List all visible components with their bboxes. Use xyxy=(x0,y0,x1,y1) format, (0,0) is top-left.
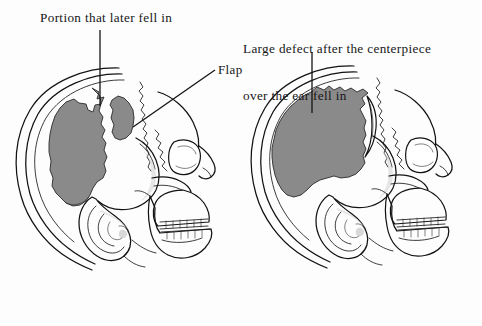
nasal-bone-right xyxy=(436,144,452,177)
upper-teeth-base-right xyxy=(397,224,445,227)
ear-concha-left xyxy=(108,222,122,240)
styloid-right xyxy=(369,238,393,251)
caption-large-defect-line2: over the ear fell in xyxy=(243,88,431,104)
figure-container: Portion that later fell in Large defect … xyxy=(0,0,482,326)
mastoid-process-right xyxy=(361,254,382,265)
ear-antihelix-right xyxy=(335,212,351,244)
ear-canal-shadow-right xyxy=(356,228,364,237)
mandible-body-right xyxy=(399,236,439,240)
flap-region-left xyxy=(110,96,134,140)
skull-panel-left xyxy=(0,0,241,326)
mastoid-process-left xyxy=(124,256,145,267)
nasal-aperture-left xyxy=(203,168,211,177)
lambdoid-suture-right xyxy=(392,128,404,169)
ear-canal-shadow-left xyxy=(119,230,127,239)
zygomatic-arch-lower-left xyxy=(154,185,182,190)
caption-flap: Flap xyxy=(218,62,243,78)
mandible-body-left xyxy=(162,238,202,242)
ear-antihelix-left xyxy=(98,214,114,246)
styloid-left xyxy=(132,240,156,253)
orbit-left xyxy=(169,140,201,175)
caption-large-defect-line1: Large defect after the centerpiece xyxy=(243,41,431,57)
lambdoid-suture-left xyxy=(155,130,167,171)
caption-portion-fell-in: Portion that later fell in xyxy=(40,10,172,26)
nasal-aperture-right xyxy=(440,166,448,175)
zygomatic-arch-lower-right xyxy=(391,183,419,188)
orbit-right xyxy=(406,138,438,173)
flap-leader-line-left xyxy=(133,70,215,127)
skull-diagram-left xyxy=(0,0,241,326)
large-defect-region-left xyxy=(49,88,107,206)
upper-teeth-base-left xyxy=(160,226,208,229)
ear-concha-right xyxy=(345,220,359,238)
nasal-bone-left xyxy=(199,146,215,179)
caption-large-defect: Large defect after the centerpiece over … xyxy=(243,10,431,134)
